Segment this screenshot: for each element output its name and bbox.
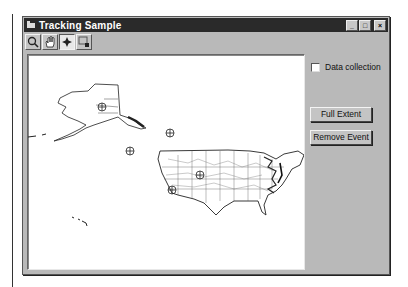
select-tool-button[interactable] <box>76 34 92 50</box>
data-collection-label: Data collection <box>325 62 381 72</box>
tracking-sample-window: Tracking Sample _ □ × <box>22 16 390 275</box>
map-toolbar <box>25 34 92 51</box>
window-controls: _ □ × <box>346 20 386 31</box>
app-icon <box>27 21 36 29</box>
hawaii-shape <box>72 217 87 226</box>
full-extent-button[interactable]: Full Extent <box>310 107 372 122</box>
contiguous-us-shape <box>158 150 304 215</box>
map-view[interactable] <box>27 54 305 270</box>
data-collection-checkbox[interactable] <box>311 63 320 72</box>
crosshair-icon <box>60 35 74 49</box>
remove-event-button[interactable]: Remove Event <box>310 130 372 145</box>
us-states-map <box>28 55 304 269</box>
page-margin-rule <box>12 14 13 287</box>
alaska-shape <box>54 84 146 141</box>
minimize-button[interactable]: _ <box>346 20 358 31</box>
window-title: Tracking Sample <box>39 20 346 31</box>
data-collection-option[interactable]: Data collection <box>311 62 381 72</box>
maximize-button[interactable]: □ <box>359 20 371 31</box>
close-button[interactable]: × <box>374 20 386 31</box>
title-bar[interactable]: Tracking Sample _ □ × <box>24 18 388 32</box>
magnifier-icon <box>26 35 40 49</box>
zoom-tool-button[interactable] <box>25 34 41 50</box>
add-event-tool-button[interactable] <box>59 34 75 50</box>
select-arrow-icon <box>77 35 91 49</box>
pan-tool-button[interactable] <box>42 34 58 50</box>
hand-icon <box>43 35 57 49</box>
